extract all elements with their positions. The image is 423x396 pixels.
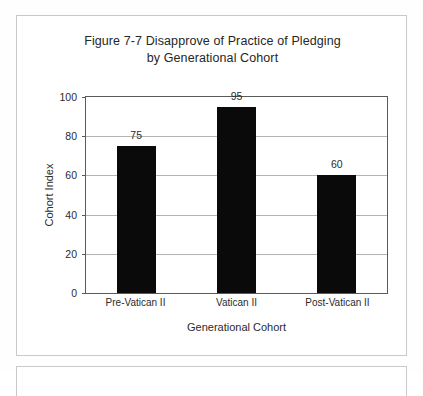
bar-band: 95: [186, 97, 286, 293]
x-axis-title: Generational Cohort: [85, 321, 388, 333]
y-axis-title: Cohort Index: [43, 96, 57, 294]
chart-title-line-1: Figure 7-7 Disapprove of Practice of Ple…: [17, 33, 408, 50]
chart-title-line-2: by Generational Cohort: [17, 50, 408, 67]
bar: 60: [317, 175, 356, 293]
bar-value-label: 75: [130, 129, 142, 141]
bar-series: 759560: [86, 97, 387, 293]
x-axis-category-label: Vatican II: [186, 297, 287, 308]
bar-value-label: 60: [331, 158, 343, 170]
y-axis-tick-label: 40: [52, 209, 86, 221]
y-axis-tick-label: 60: [52, 169, 86, 181]
x-axis-category-label: Pre-Vatican II: [85, 297, 186, 308]
figure-container: Figure 7-7 Disapprove of Practice of Ple…: [16, 15, 407, 356]
x-axis-category-label: Post-Vatican II: [287, 297, 388, 308]
y-axis-tick-label: 80: [52, 130, 86, 142]
bar-band: 75: [86, 97, 186, 293]
y-axis-tick-label: 100: [52, 91, 86, 103]
bar-band: 60: [287, 97, 387, 293]
bar: 95: [217, 107, 256, 293]
chart-title: Figure 7-7 Disapprove of Practice of Ple…: [17, 33, 408, 67]
bar: 75: [117, 146, 156, 293]
x-axis-category-labels: Pre-Vatican IIVatican IIPost-Vatican II: [85, 297, 388, 308]
y-axis-tick-label: 0: [52, 287, 86, 299]
bar-value-label: 95: [231, 90, 243, 102]
y-axis-tick-label: 20: [52, 248, 86, 260]
plot-area: 020406080100 759560: [85, 96, 388, 294]
next-figure-container: [16, 366, 407, 396]
